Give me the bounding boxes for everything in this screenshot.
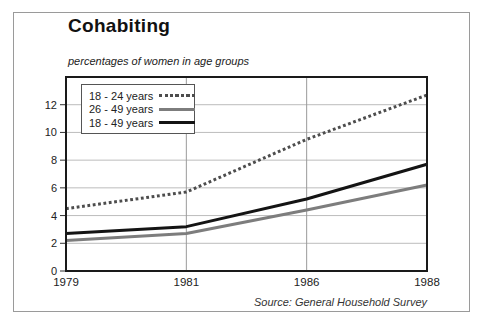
- y-tick-label: 4: [51, 210, 57, 222]
- legend-label-18-49: 18 - 49 years: [89, 117, 153, 129]
- x-tick-label: 1979: [53, 276, 79, 288]
- chart-figure: Cohabiting percentages of women in age g…: [0, 0, 482, 327]
- x-tick-label: 1986: [294, 276, 320, 288]
- gray-line-swatch-icon: [159, 108, 195, 111]
- chart-canvas: 0246810121979198119861988: [0, 0, 482, 327]
- y-tick-label: 8: [51, 154, 57, 166]
- y-tick-label: 12: [45, 99, 57, 111]
- y-tick-label: 2: [51, 237, 57, 249]
- legend-item-18-49: 18 - 49 years: [89, 116, 186, 129]
- legend-label-26-49: 26 - 49 years: [89, 103, 153, 115]
- x-tick-label: 1988: [414, 276, 440, 288]
- legend-label-18-24: 18 - 24 years: [89, 90, 153, 102]
- black-line-swatch-icon: [159, 121, 195, 124]
- legend-item-18-24: 18 - 24 years: [89, 89, 186, 102]
- dotted-line-swatch-icon: [159, 94, 195, 97]
- legend-item-26-49: 26 - 49 years: [89, 103, 186, 116]
- chart-source: Source: General Household Survey: [254, 296, 427, 308]
- x-tick-label: 1981: [174, 276, 200, 288]
- y-tick-label: 6: [51, 182, 57, 194]
- chart-legend: 18 - 24 years 26 - 49 years 18 - 49 year…: [81, 84, 195, 134]
- y-tick-label: 10: [45, 126, 57, 138]
